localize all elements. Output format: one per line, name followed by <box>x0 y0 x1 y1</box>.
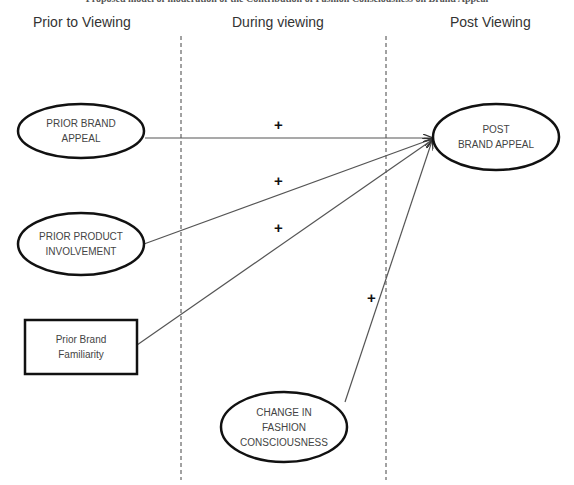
node-prior-product-involvement: PRIOR PRODUCT INVOLVEMENT <box>18 213 144 275</box>
edge-prior-product-involvement-to-post <box>144 139 432 244</box>
edge-sign-plus: + <box>367 290 376 305</box>
node-label-line: CONSCIOUSNESS <box>240 435 328 450</box>
edge-sign-plus: + <box>274 117 283 132</box>
node-change-fashion-consciousness: CHANGE IN FASHION CONSCIOUSNESS <box>221 392 347 462</box>
node-label-line: INVOLVEMENT <box>46 244 117 259</box>
node-label-line: Familiarity <box>58 347 104 362</box>
node-prior-brand-familiarity: Prior Brand Familiarity <box>25 320 137 374</box>
node-label-line: FASHION <box>262 420 306 435</box>
edge-sign-plus: + <box>274 173 283 188</box>
node-label-line: POST <box>482 122 509 137</box>
edge-sign-plus: + <box>274 220 283 235</box>
edge-fashion-consciousness-to-post <box>345 141 432 402</box>
node-label-line: CHANGE IN <box>256 405 312 420</box>
node-label-line: APPEAL <box>62 131 101 146</box>
node-label-line: PRIOR PRODUCT <box>39 229 123 244</box>
node-label-line: Prior Brand <box>56 332 107 347</box>
node-prior-brand-appeal: PRIOR BRAND APPEAL <box>18 104 144 158</box>
node-label-line: BRAND APPEAL <box>458 137 534 152</box>
node-label-line: PRIOR BRAND <box>46 116 115 131</box>
node-post-brand-appeal: POST BRAND APPEAL <box>433 104 559 170</box>
